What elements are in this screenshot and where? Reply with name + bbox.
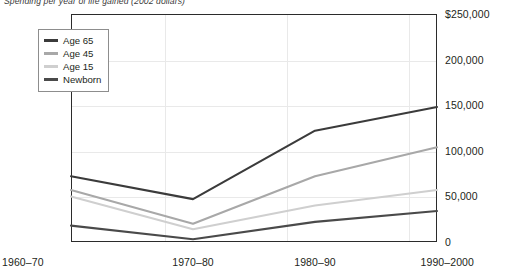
y-axis-tick-50000: 50,000 xyxy=(445,190,478,202)
legend-swatch-icon xyxy=(44,39,58,42)
y-axis-tick-100000: 100,000 xyxy=(445,145,484,157)
legend-swatch-icon xyxy=(44,52,58,55)
y-axis-tick-0: 0 xyxy=(445,236,451,248)
gridline-horizontal xyxy=(72,197,436,198)
x-axis-tick-1980-90: 1980–90 xyxy=(294,256,336,268)
legend-label: Newborn xyxy=(63,73,101,86)
legend-item-age-15: Age 15 xyxy=(44,60,103,73)
gridline-horizontal xyxy=(72,152,436,153)
x-axis-tick-1990-2000: 1990–2000 xyxy=(421,256,474,268)
legend-item-age-45: Age 45 xyxy=(44,47,103,60)
legend-label: Age 15 xyxy=(63,60,93,73)
gridline-vertical xyxy=(287,15,288,241)
legend-label: Age 65 xyxy=(63,34,93,47)
legend-swatch-icon xyxy=(44,78,58,81)
gridline-vertical xyxy=(165,15,166,241)
y-axis-tick-250000: $250,000 xyxy=(445,8,490,20)
gridline-horizontal xyxy=(72,106,436,107)
legend-swatch-icon xyxy=(44,65,58,68)
y-axis-tick-200000: 200,000 xyxy=(445,54,484,66)
legend-label: Age 45 xyxy=(63,47,93,60)
chart-container: Spending per year of life gained (2002 d… xyxy=(0,0,508,276)
legend-item-age-65: Age 65 xyxy=(44,34,103,47)
chart-legend: Age 65 Age 45 Age 15 Newborn xyxy=(38,29,109,92)
plot-area xyxy=(71,14,437,242)
legend-item-newborn: Newborn xyxy=(44,73,103,86)
x-axis-tick-1960-70: 1960–70 xyxy=(2,256,44,268)
gridline-vertical xyxy=(409,15,410,241)
y-axis-tick-150000: 150,000 xyxy=(445,99,484,111)
gridline-horizontal xyxy=(72,61,436,62)
chart-title: Spending per year of life gained (2002 d… xyxy=(4,0,185,6)
x-axis-tick-1970-80: 1970–80 xyxy=(172,256,214,268)
